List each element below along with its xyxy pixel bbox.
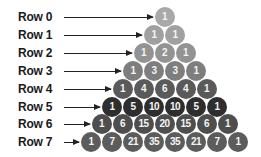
triangle-cell: 1 <box>113 79 133 99</box>
arrow-icon <box>64 71 121 72</box>
triangle-cell: 21 <box>186 132 206 152</box>
arrow-icon <box>64 142 79 143</box>
triangle-cell: 21 <box>123 132 143 152</box>
row-label-0: Row 0 <box>18 10 52 24</box>
arrow-icon <box>64 53 132 54</box>
triangle-cell: 3 <box>165 61 185 81</box>
row-label-3: Row 3 <box>18 64 52 78</box>
row-label-2: Row 2 <box>18 46 52 60</box>
triangle-cell: 1 <box>176 43 196 63</box>
triangle-cell: 1 <box>123 61 143 81</box>
triangle-cell: 7 <box>207 132 227 152</box>
triangle-cell: 1 <box>165 25 185 45</box>
arrow-icon <box>64 35 142 36</box>
arrow-icon <box>64 124 90 125</box>
triangle-cell: 4 <box>134 79 154 99</box>
triangle-cell: 1 <box>197 79 217 99</box>
triangle-cell: 1 <box>228 132 248 152</box>
row-label-1: Row 1 <box>18 28 52 42</box>
triangle-cell: 35 <box>144 132 164 152</box>
triangle-cell: 7 <box>102 132 122 152</box>
triangle-cell: 6 <box>155 79 175 99</box>
arrow-icon <box>64 107 100 108</box>
triangle-cell: 2 <box>155 43 175 63</box>
triangle-cell: 1 <box>134 43 154 63</box>
row-label-7: Row 7 <box>18 135 52 149</box>
triangle-cell: 3 <box>144 61 164 81</box>
arrow-icon <box>64 89 111 90</box>
triangle-cell: 1 <box>155 7 175 27</box>
row-label-5: Row 5 <box>18 100 52 114</box>
triangle-cell: 1 <box>81 132 101 152</box>
triangle-cell: 4 <box>176 79 196 99</box>
arrow-icon <box>64 17 153 18</box>
row-label-4: Row 4 <box>18 82 52 96</box>
triangle-cell: 1 <box>144 25 164 45</box>
row-label-6: Row 6 <box>18 117 52 131</box>
triangle-cell: 1 <box>186 61 206 81</box>
triangle-cell: 35 <box>165 132 185 152</box>
